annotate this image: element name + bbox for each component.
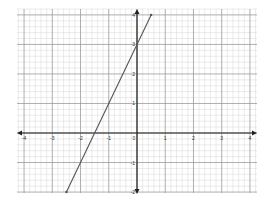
- x-tick-label: -3: [50, 135, 55, 141]
- x-axis-right-arrow-icon: [252, 131, 257, 136]
- y-tick-label: 2: [132, 71, 135, 77]
- line-endpoint-marker: [150, 14, 152, 16]
- line-endpoint-marker: [65, 191, 67, 193]
- coordinate-graph: -4-3-2-101234-2-11234: [0, 0, 267, 207]
- x-tick-label: -4: [22, 135, 27, 141]
- y-tick-label: -2: [131, 189, 136, 195]
- axes: [17, 9, 257, 194]
- x-tick-label: -1: [107, 135, 112, 141]
- x-tick-label: 4: [249, 135, 252, 141]
- x-tick-label: 0: [133, 135, 136, 141]
- y-tick-label: 3: [132, 41, 135, 47]
- x-tick-label: 2: [192, 135, 195, 141]
- y-axis-down-arrow-icon: [135, 189, 140, 194]
- y-axis-up-arrow-icon: [135, 9, 140, 14]
- x-tick-label: 3: [220, 135, 223, 141]
- y-tick-label: 4: [132, 12, 135, 18]
- y-tick-label: -1: [131, 160, 136, 166]
- x-tick-label: -2: [78, 135, 83, 141]
- y-tick-label: 1: [132, 100, 135, 106]
- x-tick-label: 1: [164, 135, 167, 141]
